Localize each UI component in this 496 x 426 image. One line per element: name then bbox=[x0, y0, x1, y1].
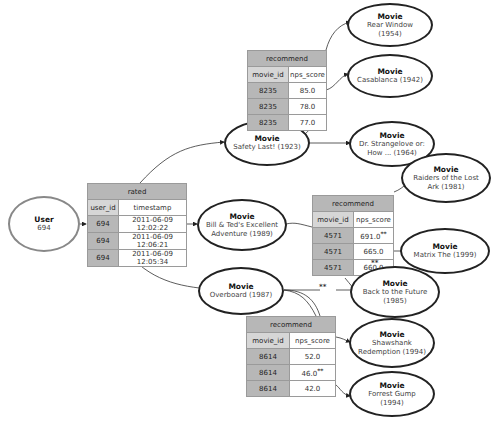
rated-title: rated bbox=[88, 184, 187, 200]
significance-marker: ** bbox=[371, 259, 378, 267]
movie-node-bill-and-ted[interactable]: Movie Bill & Ted's Excellent Adventure (… bbox=[197, 199, 287, 251]
col-header: timestamp bbox=[119, 200, 187, 216]
user-kind: User bbox=[34, 215, 53, 224]
table-row: 861452.0 bbox=[247, 349, 336, 365]
recommend-table-8235: recommend movie_idnps_score 823585.0 823… bbox=[247, 50, 327, 131]
movie-node-casablanca[interactable]: Movie Casablanca (1942) bbox=[347, 54, 433, 98]
user-id: 694 bbox=[31, 224, 56, 233]
movie-node-back-to-future[interactable]: Movie Back to the Future (1985) bbox=[350, 266, 440, 318]
table-row: 6942011-06-09 12:02:22 bbox=[88, 216, 187, 233]
movie-node-forrest-gump[interactable]: Movie Forrest Gump (1994) bbox=[349, 371, 435, 417]
recommend-table-8614: recommend movie_idnps_score 861452.0 861… bbox=[246, 316, 336, 397]
movie-node-matrix[interactable]: Movie Matrix The (1999) bbox=[400, 228, 490, 274]
user-node[interactable]: User 694 bbox=[8, 196, 80, 252]
table-row: 823585.0 bbox=[248, 83, 327, 99]
table-row: 6942011-06-09 12:05:34 bbox=[88, 250, 187, 267]
rated-table: rated user_id timestamp 6942011-06-09 12… bbox=[87, 183, 187, 267]
movie-node-overboard[interactable]: Movie Overboard (1987) bbox=[198, 267, 284, 315]
table-row: 861446.0** bbox=[247, 365, 336, 381]
col-header: user_id bbox=[88, 200, 119, 216]
table-row: 823578.0 bbox=[248, 99, 327, 115]
movie-node-shawshank[interactable]: Movie Shawshank Redemption (1994) bbox=[349, 318, 435, 368]
significance-marker: ** bbox=[317, 367, 323, 374]
movie-node-raiders-lost-ark[interactable]: Movie Raiders of the Lost Ark (1981) bbox=[401, 153, 491, 203]
movie-node-rear-window[interactable]: Movie Rear Window (1954) bbox=[347, 3, 433, 47]
significance-marker: ** bbox=[380, 230, 386, 237]
table-row: 6942011-06-09 12:06:21 bbox=[88, 233, 187, 250]
significance-marker: ** bbox=[319, 283, 326, 291]
table-row: 4571665.0 bbox=[313, 244, 394, 260]
recommend-table-4571: recommend movie_idnps_score 4571691.0** … bbox=[312, 195, 394, 276]
table-row: 861442.0 bbox=[247, 381, 336, 397]
table-row: 4571691.0** bbox=[313, 228, 394, 244]
table-row: 823577.0 bbox=[248, 115, 327, 131]
